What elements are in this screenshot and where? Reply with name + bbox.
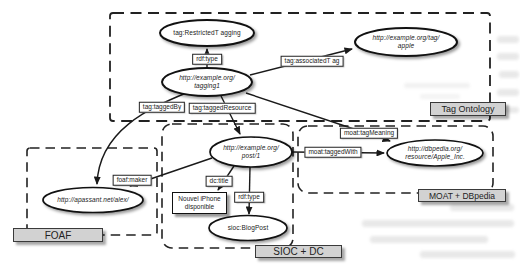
node-label-apple-inc: http://dbpedia.org/resource/Apple_Inc. [386,145,484,160]
group-label-moat-dbpedia: MOAT + DBpedia [418,189,506,202]
edge-label-moat-taggedwith: moat:taggedWith [304,147,361,158]
node-label-tagging1: http://example.org/tagging1 [162,74,252,89]
edge-label-rdf-type-tagging: rdf:type [192,54,222,65]
edge-tag-taggedresource [221,96,240,134]
edge-label-dc-title: dc:title [206,176,233,187]
edge-label-foaf-maker: foaf:maker [113,175,152,186]
iphone-title-line2: disponible [173,203,226,211]
iphone-title-line1: Nouvel iPhone [173,195,226,203]
edge-label-tag-taggedresource: tag:taggedResource [189,103,256,114]
node-label-alex: http://apassant.net/alex/ [41,196,145,204]
diagram-canvas: tag:RestrictedT agging http://example.or… [0,0,520,271]
group-label-foaf: FOAF [13,228,103,242]
group-label-tag-ontology: Tag Ontology [430,102,506,116]
node-rect-iphone-title: Nouvel iPhone disponible [172,192,227,214]
node-label-restricted-tagging: tag:RestrictedT agging [157,29,257,37]
edge-rdf-type-post [249,167,250,214]
edge-label-rdf-type-post: rdf:type [234,192,264,203]
edge-label-tag-associatedtag: tag:associatedT ag [281,56,344,67]
edge-label-moat-tagmeaning: moat:tagMeaning [340,128,398,139]
node-label-blogpost: sioc:BlogPost [208,224,288,232]
group-label-sioc-dc: SIOC + DC [255,245,342,258]
edge-label-tag-taggedby: tag:taggedBy [139,102,185,113]
node-label-post1: http://example.org/post/1 [209,144,293,159]
node-label-tag-apple: http://example.org/tag/apple [354,34,458,49]
